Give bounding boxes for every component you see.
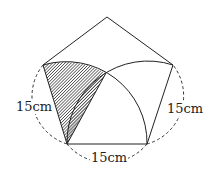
- label-left-side: 15cm: [15, 100, 53, 114]
- pentagon-diagram: 15cm 15cm 15cm: [0, 0, 212, 173]
- diagram-canvas: [0, 0, 212, 173]
- label-bottom-side: 15cm: [90, 151, 128, 165]
- label-right-side: 15cm: [166, 102, 204, 116]
